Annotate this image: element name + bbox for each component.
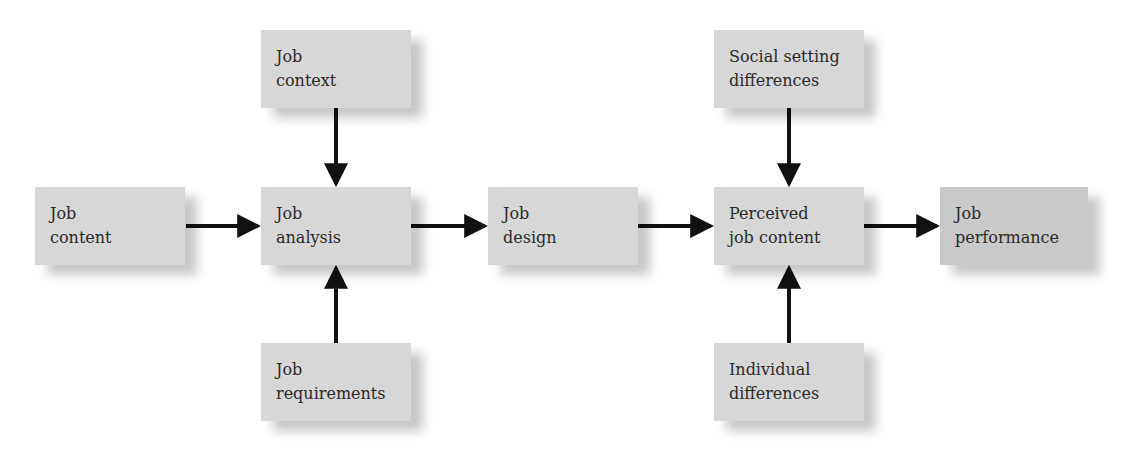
node-label-line1: Job [276, 358, 411, 382]
node-label-line2: differences [729, 69, 864, 93]
node-label-line2: performance [955, 226, 1088, 250]
node-social-setting-differences: Social setting differences [714, 30, 864, 108]
node-label-line1: Job [955, 202, 1088, 226]
node-job-content: Job content [35, 187, 185, 265]
node-label-line2: differences [729, 382, 864, 406]
node-job-analysis: Job analysis [261, 187, 411, 265]
node-label-line2: content [50, 226, 185, 250]
node-label-line1: Perceived [729, 202, 864, 226]
node-label-line1: Individual [729, 358, 864, 382]
node-individual-differences: Individual differences [714, 343, 864, 421]
node-label-line1: Social setting [729, 45, 864, 69]
node-label-line2: requirements [276, 382, 411, 406]
node-job-performance: Job performance [940, 187, 1088, 265]
node-label-line2: job content [729, 226, 864, 250]
node-job-context: Job context [261, 30, 411, 108]
node-job-requirements: Job requirements [261, 343, 411, 421]
node-label-line2: context [276, 69, 411, 93]
node-job-design: Job design [488, 187, 638, 265]
node-label-line1: Job [503, 202, 638, 226]
node-label-line1: Job [50, 202, 185, 226]
node-label-line1: Job [276, 202, 411, 226]
node-label-line2: analysis [276, 226, 411, 250]
job-design-diagram: Job content Job context Job analysis Job… [0, 0, 1129, 449]
node-label-line2: design [503, 226, 638, 250]
node-perceived-job-content: Perceived job content [714, 187, 864, 265]
node-label-line1: Job [276, 45, 411, 69]
